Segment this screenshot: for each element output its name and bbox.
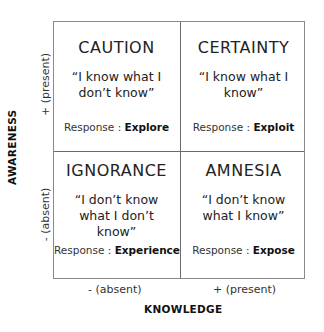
response-label: Response :: [64, 121, 125, 133]
y-tick-present: + (present): [39, 50, 52, 120]
quadrant-title: CERTAINTY: [181, 38, 306, 57]
quadrant-title: CAUTION: [54, 38, 179, 57]
quadrant-quote: “I know what I don’t know”: [58, 69, 175, 101]
y-axis-label: AWARENESS: [6, 115, 18, 185]
quadrant-amnesia: AMNESIA “I don’t know what I know” Respo…: [181, 152, 306, 280]
quadrant-title: AMNESIA: [181, 161, 306, 180]
quadrant-quote: “I know what I know”: [185, 69, 302, 101]
response-label: Response :: [192, 244, 253, 256]
quadrant-response: Response : Expose: [181, 244, 306, 256]
quadrant-quote: “I don’t know what I know”: [185, 192, 302, 224]
quadrant-quote: “I don’t know what I don’t know”: [58, 192, 175, 240]
y-tick-absent: - (absent): [39, 180, 52, 250]
x-axis-label: KNOWLEDGE: [144, 303, 223, 315]
knowledge-awareness-matrix: CAUTION “I know what I don’t know” Respo…: [53, 21, 305, 279]
quadrant-caution: CAUTION “I know what I don’t know” Respo…: [54, 22, 179, 150]
quadrant-response: Response : Exploit: [181, 121, 306, 133]
response-value: Exploit: [253, 121, 294, 133]
quadrant-ignorance: IGNORANCE “I don’t know what I don’t kno…: [54, 152, 179, 280]
quadrant-response: Response : Explore: [54, 121, 179, 133]
response-value: Expose: [253, 244, 295, 256]
response-label: Response :: [54, 244, 115, 256]
x-tick-present: + (present): [213, 283, 276, 296]
response-value: Explore: [125, 121, 170, 133]
quadrant-response: Response : Experience: [54, 244, 179, 256]
x-tick-absent: - (absent): [88, 283, 142, 296]
quadrant-certainty: CERTAINTY “I know what I know” Response …: [181, 22, 306, 150]
quadrant-title: IGNORANCE: [54, 161, 179, 180]
response-value: Experience: [115, 244, 180, 256]
response-label: Response :: [193, 121, 254, 133]
